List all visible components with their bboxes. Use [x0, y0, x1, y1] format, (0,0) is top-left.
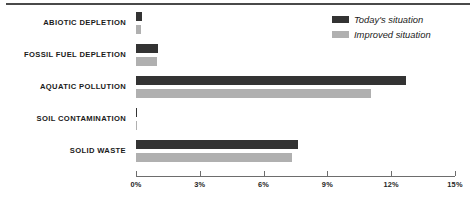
bar-todays [136, 108, 137, 117]
category-label: AQUATIC POLLUTION [0, 72, 130, 102]
bar-group [136, 40, 466, 70]
bar-todays [136, 12, 142, 21]
bar-group [136, 104, 466, 134]
legend-label-improved-situation: Improved situation [354, 30, 431, 39]
x-axis-tick-label: 12% [383, 180, 398, 189]
x-axis-tick [391, 171, 392, 176]
x-axis-tick-label: 15% [447, 180, 462, 189]
bar-improved [136, 25, 141, 34]
bar-group [136, 136, 466, 166]
bar-improved [136, 121, 137, 130]
category-label: SOLID WASTE [0, 136, 130, 166]
bar-improved [136, 89, 371, 98]
bar-todays [136, 140, 298, 149]
x-axis-tick [200, 171, 201, 176]
x-axis-tick [327, 171, 328, 176]
x-axis-tick-label: 3% [194, 180, 205, 189]
x-axis-tick [136, 171, 137, 176]
legend-swatch-icon-dark [332, 16, 349, 23]
legend-item-todays-situation: Today's situation [332, 13, 472, 26]
bar-group [136, 72, 466, 102]
bar-chart: ABIOTIC DEPLETIONFOSSIL FUEL DEPLETIONAQ… [0, 0, 476, 200]
x-axis-tick-label: 6% [258, 180, 269, 189]
chart-row: SOIL CONTAMINATION [0, 104, 476, 134]
bar-improved [136, 57, 157, 66]
x-axis-tick [455, 171, 456, 176]
chart-row: SOLID WASTE [0, 136, 476, 166]
x-axis-tick-label: 0% [130, 180, 141, 189]
legend-item-improved-situation: Improved situation [332, 28, 472, 41]
chart-row: FOSSIL FUEL DEPLETION [0, 40, 476, 70]
bar-todays [136, 76, 406, 85]
category-label: SOIL CONTAMINATION [0, 104, 130, 134]
x-axis-tick-label: 9% [322, 180, 333, 189]
bar-todays [136, 44, 158, 53]
category-label: ABIOTIC DEPLETION [0, 8, 130, 38]
x-axis-tick [264, 171, 265, 176]
category-label: FOSSIL FUEL DEPLETION [0, 40, 130, 70]
chart-row: AQUATIC POLLUTION [0, 72, 476, 102]
legend-swatch-icon-light [332, 31, 349, 38]
chart-legend: Today's situation Improved situation [332, 13, 472, 43]
x-axis-line [136, 176, 455, 177]
bar-improved [136, 153, 292, 162]
legend-label-todays-situation: Today's situation [354, 15, 423, 24]
